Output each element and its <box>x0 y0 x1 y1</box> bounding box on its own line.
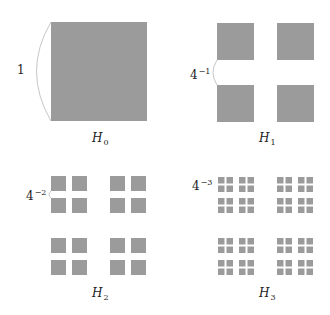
panel-label-h3: H3 <box>259 287 276 304</box>
square-h1 <box>277 85 314 122</box>
square-h3 <box>277 247 284 254</box>
square-h3 <box>277 260 284 267</box>
size-label-h0: 1 <box>17 64 25 76</box>
square-h3 <box>239 247 246 254</box>
square-h0 <box>51 22 147 121</box>
square-h3 <box>248 177 255 184</box>
square-h3 <box>227 198 234 205</box>
square-h3 <box>277 269 284 276</box>
square-h3 <box>248 207 255 214</box>
square-h3 <box>248 269 255 276</box>
square-h3 <box>307 207 314 214</box>
square-h3 <box>286 207 293 214</box>
square-h3 <box>286 186 293 193</box>
square-h3 <box>298 238 305 245</box>
square-h3 <box>239 269 246 276</box>
panel-label-h0: H0 <box>92 132 109 149</box>
panel-label-h3-base: H <box>259 286 269 300</box>
square-h2 <box>51 198 66 213</box>
square-h3 <box>227 238 234 245</box>
square-h3 <box>248 186 255 193</box>
square-h3 <box>307 198 314 205</box>
square-h2 <box>72 260 87 275</box>
square-h3 <box>277 186 284 193</box>
panel-label-h1: H1 <box>259 132 276 149</box>
square-h2 <box>131 238 146 253</box>
square-h2 <box>131 176 146 191</box>
square-h3 <box>307 186 314 193</box>
square-h3 <box>286 177 293 184</box>
square-h3 <box>227 260 234 267</box>
square-h3 <box>248 198 255 205</box>
square-h3 <box>286 269 293 276</box>
square-h3 <box>239 260 246 267</box>
square-h3 <box>307 269 314 276</box>
size-label-h1: 4−1 <box>190 66 210 81</box>
size-arc-h0 <box>37 22 52 121</box>
square-h3 <box>277 207 284 214</box>
panel-h1 <box>213 23 314 122</box>
square-h3 <box>277 177 284 184</box>
square-h3 <box>286 198 293 205</box>
square-h3 <box>239 198 246 205</box>
square-h2 <box>131 198 146 213</box>
square-h3 <box>218 177 225 184</box>
diagram-canvas <box>0 0 330 315</box>
square-h1 <box>217 85 254 122</box>
square-h1 <box>277 23 314 60</box>
square-h2 <box>110 238 125 253</box>
square-h3 <box>227 177 234 184</box>
square-h3 <box>227 207 234 214</box>
square-h2 <box>110 176 125 191</box>
square-h3 <box>218 269 225 276</box>
square-h3 <box>286 247 293 254</box>
size-label-h2-base: 4 <box>26 189 34 203</box>
square-h3 <box>248 247 255 254</box>
square-h2 <box>131 260 146 275</box>
square-h3 <box>298 177 305 184</box>
panel-h3 <box>218 177 313 275</box>
square-h3 <box>277 238 284 245</box>
square-h3 <box>298 198 305 205</box>
square-h3 <box>307 260 314 267</box>
size-label-h2-exp: −2 <box>35 188 47 197</box>
square-h3 <box>277 198 284 205</box>
size-label-h1-exp: −1 <box>199 67 211 76</box>
square-h3 <box>239 186 246 193</box>
square-h3 <box>307 177 314 184</box>
panel-label-h2-sub: 2 <box>103 293 108 302</box>
square-h1 <box>217 23 254 60</box>
panel-h2 <box>51 176 146 275</box>
size-arc-h1 <box>213 60 217 85</box>
panel-h0 <box>37 22 148 121</box>
square-h3 <box>286 260 293 267</box>
panel-label-h3-sub: 3 <box>270 293 275 302</box>
square-h2 <box>72 176 87 191</box>
size-label-h3-exp: −3 <box>201 178 213 187</box>
size-label-h3-base: 4 <box>192 179 200 193</box>
square-h3 <box>298 260 305 267</box>
square-h2 <box>51 176 66 191</box>
square-h3 <box>227 269 234 276</box>
square-h3 <box>227 186 234 193</box>
square-h2 <box>72 198 87 213</box>
square-h2 <box>51 260 66 275</box>
square-h3 <box>218 207 225 214</box>
square-h3 <box>218 260 225 267</box>
square-h3 <box>239 207 246 214</box>
square-h3 <box>307 238 314 245</box>
square-h3 <box>239 238 246 245</box>
panel-label-h1-sub: 1 <box>270 138 275 147</box>
square-h3 <box>218 186 225 193</box>
square-h3 <box>248 260 255 267</box>
square-h3 <box>298 207 305 214</box>
square-h3 <box>298 186 305 193</box>
square-h3 <box>227 247 234 254</box>
square-h3 <box>218 238 225 245</box>
square-h2 <box>72 238 87 253</box>
panel-label-h2: H2 <box>92 287 109 304</box>
square-h3 <box>218 198 225 205</box>
size-label-h1-base: 4 <box>190 68 198 82</box>
square-h2 <box>110 260 125 275</box>
square-h2 <box>110 198 125 213</box>
